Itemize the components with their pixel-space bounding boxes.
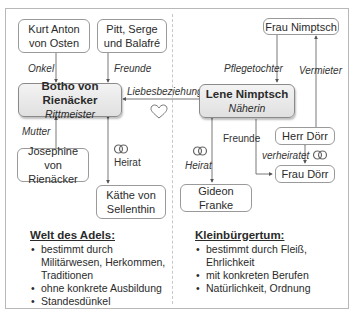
node-label: Herr Dörr [282,129,328,143]
node-name: Botho von Rienäcker [19,79,121,107]
wedding-rings-icon [192,146,208,156]
relation-verheiratet: verheiratet [262,150,309,161]
heart-icon [150,104,168,120]
section-title: Welt des Adels: [30,229,170,242]
node-label: Pitt, Serge [106,22,157,36]
node-label: Sellenthin [107,202,155,216]
node-kurt-anton-von-osten: Kurt Anton von Osten [18,19,90,53]
node-label: von Rienäcker [18,158,88,186]
node-frau-nimptsch: Frau Nimptsch [263,18,339,35]
node-herr-doerr: Herr Dörr [275,127,335,145]
relation-vermieter: Vermieter [299,65,342,76]
list-item: Natürlichkeit, Ordnung [206,282,335,295]
relation-liebesbeziehung: Liebesbeziehung [127,86,203,97]
list-item: ohne konkrete Ausbildung [41,282,170,295]
node-label: Frau Dörr [281,167,328,181]
wedding-rings-icon [312,150,328,160]
node-label: Kurt Anton [28,22,79,36]
node-label: Gideon Franke [181,184,251,212]
section-title: Kleinbürgertum: [195,229,335,242]
node-frau-doerr: Frau Dörr [275,165,335,183]
relation-mutter: Mutter [22,126,50,137]
node-label: Josephine [28,144,78,158]
wedding-rings-icon [113,144,129,154]
node-gideon-franke: Gideon Franke [180,184,252,212]
relation-freunde-left: Freunde [114,63,151,74]
relation-onkel: Onkel [28,63,54,74]
node-role: Näherin [229,101,266,115]
node-josephine-von-rienaecker: Josephine von Rienäcker [17,148,89,182]
section-kleinbuergertum: Kleinbürgertum: bestimmt durch Fleiß, Eh… [195,229,335,295]
node-pitt-serge-balafre: Pitt, Serge und Balafré [97,19,167,53]
list-item: mit konkreten Berufen [206,269,335,282]
node-lene-nimptsch: Lene Nimptsch Näherin [199,84,295,118]
node-role: Rittmeister [45,107,95,121]
section-list: bestimmt durch Fleiß, Ehrlichkeit mit ko… [195,243,335,295]
relation-heirat-left: Heirat [114,157,141,168]
node-kaethe-von-sellenthin: Käthe von Sellenthin [96,185,166,219]
list-item: Standesdünkel [41,295,170,308]
node-label: und Balafré [104,36,160,50]
node-label: Frau Nimptsch [265,20,337,34]
node-botho-von-rienaecker: Botho von Rienäcker Rittmeister [18,83,122,117]
node-label: von Osten [29,36,79,50]
relation-heirat-right: Heirat [185,160,212,171]
relation-pflegetochter: Pflegetochter [224,63,283,74]
section-welt-des-adels: Welt des Adels: bestimmt durch Militärwe… [30,229,170,308]
list-item: bestimmt durch Militärwesen, Herkommen, … [41,243,170,282]
relation-freunde-right: Freunde [223,133,260,144]
node-name: Lene Nimptsch [206,87,288,101]
list-item: bestimmt durch Fleiß, Ehrlichkeit [206,243,335,269]
section-list: bestimmt durch Militärwesen, Herkommen, … [30,243,170,308]
node-label: Käthe von [106,188,156,202]
